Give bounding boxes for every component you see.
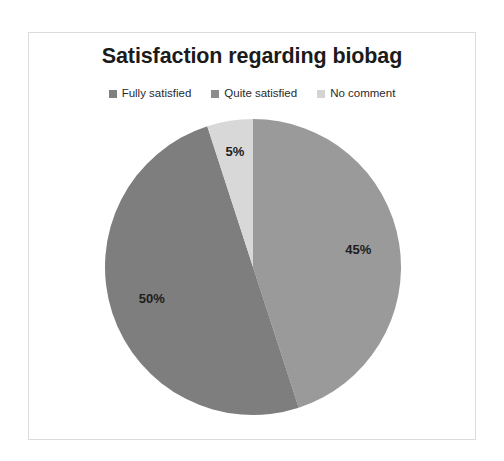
pie-slice-label: 45%	[345, 242, 371, 257]
legend-item-no-comment[interactable]: No comment	[317, 88, 395, 100]
legend-item-label: Quite satisfied	[224, 88, 297, 100]
pie-slice-group	[105, 119, 401, 415]
legend-item-fully-satisfied[interactable]: Fully satisfied	[109, 88, 192, 100]
chart-legend: Fully satisfied Quite satisfied No comme…	[29, 88, 475, 100]
legend-swatch-icon	[109, 90, 117, 98]
page-title: Satisfaction regarding biobag	[29, 45, 475, 69]
pie-slice-label: 50%	[139, 291, 165, 306]
legend-item-label: No comment	[330, 88, 395, 100]
pie-slice-label: 5%	[226, 144, 245, 159]
pie-chart: 45%50%5%	[103, 117, 403, 417]
chart-frame: Satisfaction regarding biobag Fully sati…	[28, 32, 476, 440]
legend-item-label: Fully satisfied	[122, 88, 192, 100]
legend-item-quite-satisfied[interactable]: Quite satisfied	[211, 88, 297, 100]
pie-svg: 45%50%5%	[103, 117, 403, 417]
legend-swatch-icon	[211, 90, 219, 98]
legend-swatch-icon	[317, 90, 325, 98]
